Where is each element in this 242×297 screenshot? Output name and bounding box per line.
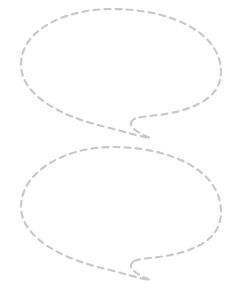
speech-bubble-bottom <box>21 147 221 280</box>
speech-bubble-top <box>21 9 221 138</box>
bubbles-canvas <box>0 0 242 297</box>
